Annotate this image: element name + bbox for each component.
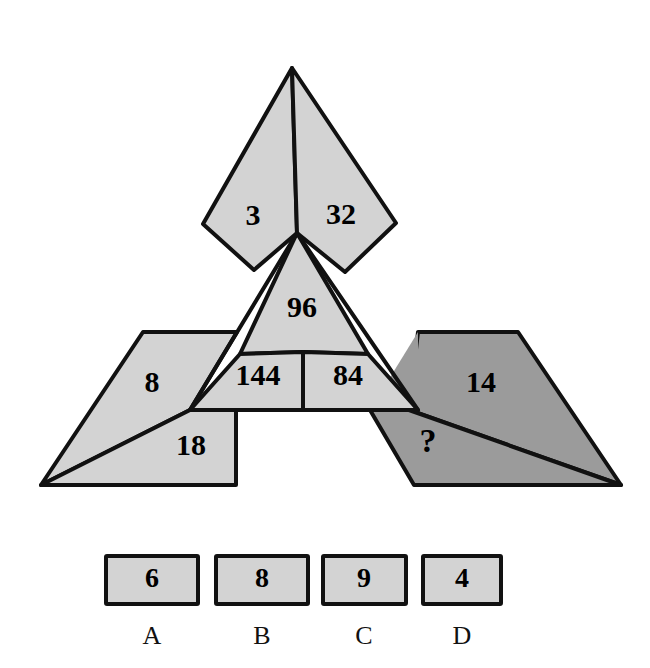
label-right-parallelogram-upper: 14 bbox=[466, 365, 496, 398]
answer-option-b-letter: B bbox=[253, 621, 270, 650]
answer-option-d-letter: D bbox=[453, 621, 472, 650]
label-center-right: 84 bbox=[333, 358, 363, 391]
label-left-parallelogram-lower: 18 bbox=[176, 428, 206, 461]
answer-option-d[interactable]: 4 D bbox=[423, 556, 501, 650]
answer-option-d-value: 4 bbox=[455, 562, 469, 593]
answer-option-a[interactable]: 6 A bbox=[106, 556, 198, 650]
answer-option-b[interactable]: 8 B bbox=[216, 556, 308, 650]
answer-option-c-value: 9 bbox=[357, 562, 371, 593]
top-kite-region-right bbox=[292, 68, 396, 272]
label-unknown-question-mark: ? bbox=[420, 422, 437, 459]
label-left-parallelogram-upper: 8 bbox=[145, 365, 160, 398]
label-top-kite-right: 32 bbox=[326, 197, 356, 230]
answer-option-b-value: 8 bbox=[255, 562, 269, 593]
label-center-top: 96 bbox=[287, 290, 317, 323]
answer-option-c-letter: C bbox=[355, 621, 372, 650]
answer-option-a-value: 6 bbox=[145, 562, 159, 593]
top-kite-region-left bbox=[203, 68, 297, 270]
answer-option-a-letter: A bbox=[143, 621, 162, 650]
answer-option-c[interactable]: 9 C bbox=[323, 556, 406, 650]
label-center-left: 144 bbox=[236, 358, 281, 391]
puzzle-svg-canvas: 3 32 96 144 84 8 18 14 ? 6 A 8 B 9 C 4 D bbox=[0, 0, 650, 668]
label-top-kite-left: 3 bbox=[246, 198, 261, 231]
puzzle-figure: 3 32 96 144 84 8 18 14 ? 6 A 8 B 9 C 4 D bbox=[0, 0, 650, 668]
